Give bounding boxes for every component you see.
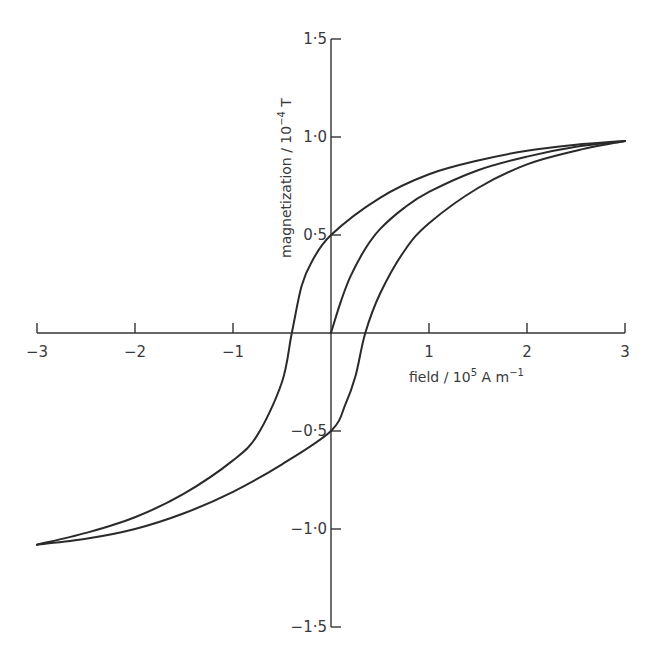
y-tick-label: −0·5	[291, 422, 327, 440]
x-tick-label: 1	[424, 343, 434, 361]
x-tick-label: −2	[124, 343, 146, 361]
y-axis-title: magnetization / 10−4 T	[276, 98, 294, 258]
x-tick-label: −1	[222, 343, 244, 361]
x-tick-label: 2	[522, 343, 532, 361]
y-tick-label: 0·5	[303, 226, 327, 244]
x-tick-label: −3	[26, 343, 48, 361]
hysteresis-chart: −3−2−11231·51·00·5−0·5−1·0−1·5 magnetiza…	[0, 0, 663, 658]
x-axis-title: field / 105 A m−1	[409, 367, 524, 385]
y-tick-label: 1·5	[303, 30, 327, 48]
figure-caption-clipped	[0, 650, 663, 658]
y-tick-label: 1·0	[303, 128, 327, 146]
x-tick-label: 3	[620, 343, 630, 361]
y-tick-label: −1·5	[291, 618, 327, 636]
y-tick-label: −1·0	[291, 520, 327, 538]
